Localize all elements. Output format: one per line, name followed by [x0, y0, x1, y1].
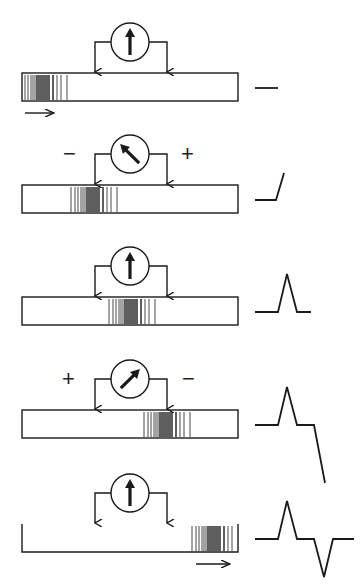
- recorded-trace: [255, 501, 354, 577]
- panel-5: [22, 474, 354, 577]
- depolarization-stripes: [25, 75, 67, 100]
- depolarization-stripes: [192, 526, 232, 551]
- panel-3: [22, 247, 311, 325]
- left-electrode-lead: [95, 266, 111, 296]
- axon: [22, 410, 238, 438]
- depolarization-stripes: [71, 187, 117, 212]
- panel-1: [22, 23, 278, 113]
- right-electrode-lead: [149, 379, 167, 409]
- depolarization-stripes: [144, 412, 190, 437]
- right-electrode-lead: [149, 493, 167, 523]
- axon: [22, 73, 238, 101]
- panel-2: −+: [22, 135, 284, 213]
- recorded-trace: [255, 387, 325, 483]
- right-electrode-lead: [149, 154, 167, 184]
- right-electrode-lead: [149, 266, 167, 296]
- left-electrode-lead: [95, 379, 111, 409]
- left-electrode-lead: [95, 493, 111, 523]
- left-polarity-sign: +: [62, 366, 75, 391]
- left-polarity-sign: −: [63, 141, 76, 166]
- right-polarity-sign: +: [181, 141, 194, 166]
- action-potential-diagram: −++−: [0, 0, 361, 588]
- axon: [22, 185, 238, 213]
- recorded-trace: [255, 173, 284, 200]
- right-electrode-lead: [149, 42, 167, 72]
- depolarization-stripes: [109, 299, 155, 324]
- left-electrode-lead: [95, 154, 111, 184]
- panel-4: +−: [22, 360, 325, 483]
- left-electrode-lead: [95, 42, 111, 72]
- recorded-trace: [255, 274, 311, 312]
- right-polarity-sign: −: [182, 366, 195, 391]
- axon: [22, 297, 238, 325]
